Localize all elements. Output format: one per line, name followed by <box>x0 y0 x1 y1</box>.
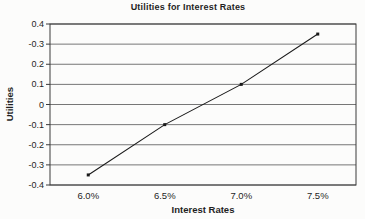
y-tick-label: -0.2 <box>28 140 44 150</box>
x-tick-label: 6.5% <box>154 190 176 201</box>
y-tick-label: 0.4 <box>31 19 44 29</box>
x-tick-label: 7.5% <box>307 190 329 201</box>
y-tick-label: 0.2 <box>31 59 44 69</box>
y-tick-label: -0.1 <box>28 120 44 130</box>
data-point <box>316 33 319 36</box>
data-point <box>87 173 90 176</box>
x-axis-title: Interest Rates <box>50 204 356 215</box>
data-point <box>240 83 243 86</box>
data-point <box>163 123 166 126</box>
y-tick-label: -0.4 <box>28 180 44 190</box>
y-tick-label: 0.1 <box>31 79 44 89</box>
chart-container: Utilities for Interest Rates Utilities 0… <box>0 0 365 219</box>
y-tick-label: -0.3 <box>28 160 44 170</box>
chart-canvas: 0.4-0.30.20.10-0.1-0.2-0.3-0.46.0%6.5%7.… <box>0 0 365 219</box>
x-tick-label: 6.0% <box>77 190 99 201</box>
y-tick-label: -0.3 <box>28 39 44 49</box>
y-tick-label: 0 <box>39 100 44 110</box>
x-tick-label: 7.0% <box>230 190 252 201</box>
